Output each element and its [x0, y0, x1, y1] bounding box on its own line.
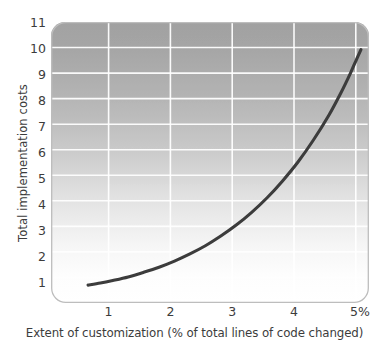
x-axis-title: Extent of customization (% of total line…	[0, 326, 389, 340]
x-tick-label: 5%	[350, 306, 370, 319]
chart-figure: Total implementation costs 11 10 9 8 7 6…	[0, 0, 389, 352]
x-tick-label: 4	[290, 306, 298, 319]
x-tick-label: 2	[166, 306, 174, 319]
x-tick-label: 1	[105, 306, 113, 319]
x-axis-tick-labels: 1 2 3 4 5%	[0, 0, 389, 352]
x-tick-label: 3	[228, 306, 236, 319]
